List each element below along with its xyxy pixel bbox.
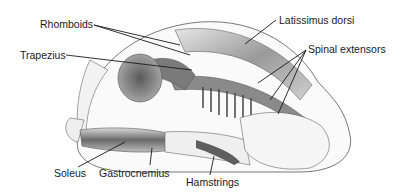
label-rhomboids: Rhomboids: [40, 19, 93, 30]
label-gastrocnemius: Gastrocnemius: [99, 168, 170, 179]
anatomy-figure: Rhomboids Trapezius Latissimus dorsi Spi…: [0, 0, 403, 194]
leg-muscles: [80, 128, 170, 152]
label-trapezius: Trapezius: [20, 50, 66, 61]
head: [118, 54, 162, 102]
label-latissimus-dorsi: Latissimus dorsi: [279, 15, 354, 26]
label-spinal-extensors: Spinal extensors: [308, 44, 386, 55]
label-soleus: Soleus: [54, 168, 86, 179]
label-hamstrings: Hamstrings: [186, 177, 239, 188]
